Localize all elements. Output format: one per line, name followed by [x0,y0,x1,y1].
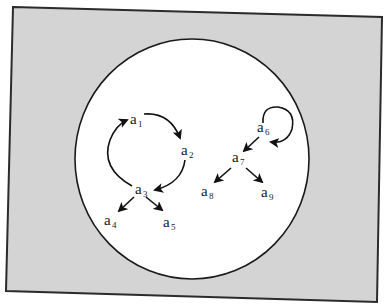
diagram-canvas: a 1 a 2 a 3 a 4 a 5 a 6 a 7 a 8 [0,0,386,307]
node-label-a1: a [130,111,137,127]
node-sub-a7: 7 [240,157,245,167]
node-sub-a2: 2 [189,150,194,160]
node-sub-a5: 5 [171,222,176,232]
node-label-a3: a [135,181,142,197]
node-sub-a4: 4 [112,220,117,230]
node-label-a2: a [181,142,188,158]
node-sub-a9: 9 [269,192,274,202]
node-label-a6: a [257,119,264,135]
node-label-a4: a [104,212,111,228]
node-label-a7: a [232,149,239,165]
node-sub-a6: 6 [265,127,270,137]
node-label-a5: a [163,214,170,230]
node-sub-a3: 3 [143,189,148,199]
node-sub-a8: 8 [209,191,214,201]
node-sub-a1: 1 [138,119,143,129]
node-label-a9: a [261,184,268,200]
node-label-a8: a [201,183,208,199]
